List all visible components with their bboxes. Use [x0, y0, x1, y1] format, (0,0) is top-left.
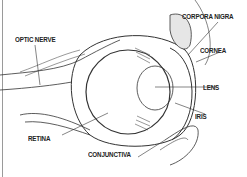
- label-retina: RETINA: [28, 134, 50, 143]
- label-iris: IRIS: [195, 112, 207, 121]
- label-conjunctiva: CONJUNCTIVA: [88, 150, 131, 159]
- label-optic-nerve: OPTIC NERVE: [15, 35, 55, 44]
- label-corpora-nigra: CORPORA NIGRA: [182, 12, 233, 21]
- label-lens: LENS: [203, 83, 219, 92]
- label-cornea: CORNEA: [200, 46, 226, 55]
